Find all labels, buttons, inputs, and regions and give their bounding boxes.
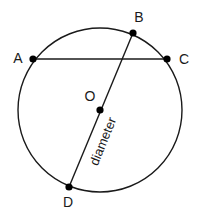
point-a [29, 55, 36, 62]
point-label-a: A [13, 50, 23, 66]
diameter-label: diameter [86, 114, 119, 167]
point-b [129, 29, 136, 36]
point-c [163, 55, 170, 62]
point-o [96, 106, 103, 113]
point-label-d: D [63, 194, 73, 210]
point-d [65, 183, 72, 190]
circle-diagram: ABCOD diameter [0, 0, 197, 217]
point-label-b: B [134, 9, 143, 25]
point-label-c: C [179, 51, 189, 67]
point-label-o: O [85, 88, 96, 104]
